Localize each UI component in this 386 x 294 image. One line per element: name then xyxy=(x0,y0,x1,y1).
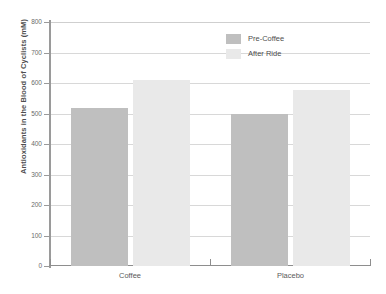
legend-item[interactable]: After Ride xyxy=(226,46,284,61)
y-axis-tick-label: 400 xyxy=(2,140,42,147)
bar xyxy=(231,114,288,266)
bar xyxy=(293,90,350,266)
x-axis-tick xyxy=(210,259,211,266)
legend-label: After Ride xyxy=(248,49,281,58)
y-axis-tick-label: 200 xyxy=(2,201,42,208)
y-axis-tick-label: 600 xyxy=(2,79,42,86)
legend-label: Pre-Coffee xyxy=(248,34,284,43)
plot-area xyxy=(50,22,370,266)
x-axis-category-label: Coffee xyxy=(50,271,210,280)
y-axis-tick-label: 800 xyxy=(2,18,42,25)
y-axis-tick-label: 500 xyxy=(2,110,42,117)
y-axis-tick-label: 0 xyxy=(2,262,42,269)
bar xyxy=(133,80,190,266)
legend-swatch xyxy=(226,34,241,44)
y-axis-tick-label: 700 xyxy=(2,49,42,56)
x-axis-tick xyxy=(370,259,371,266)
legend-item[interactable]: Pre-Coffee xyxy=(226,31,284,46)
legend: Pre-CoffeeAfter Ride xyxy=(226,31,284,61)
x-axis-tick xyxy=(50,259,51,266)
bar-chart: Antioxidants in the Blood of Cyclists (m… xyxy=(0,0,386,294)
legend-swatch xyxy=(226,49,241,59)
x-axis-category-label: Placebo xyxy=(210,271,371,280)
y-axis-tick-label: 100 xyxy=(2,232,42,239)
bar xyxy=(71,108,128,266)
y-axis-tick-label: 300 xyxy=(2,171,42,178)
